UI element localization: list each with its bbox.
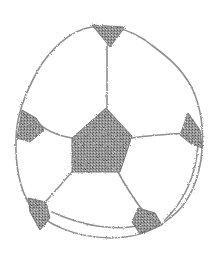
- center-pentagon: [72, 108, 132, 172]
- left-patch: [17, 110, 44, 142]
- right-patch: [180, 113, 202, 148]
- top-patch: [92, 25, 125, 47]
- bottom-left-patch: [28, 198, 50, 230]
- sketch-canvas: [0, 0, 224, 254]
- soccer-ball-sketch: [0, 0, 224, 254]
- bottom-right-patch: [132, 208, 162, 234]
